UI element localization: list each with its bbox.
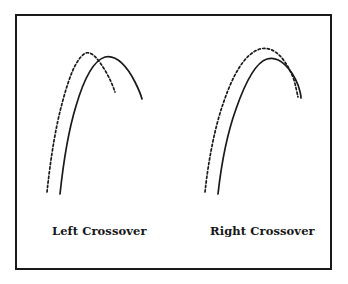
left-panel-solid-curve [60, 57, 142, 194]
figure-root: Left Crossover Right Crossover [0, 0, 348, 284]
caption-left-crossover: Left Crossover [52, 224, 147, 238]
figure-border-frame: Left Crossover Right Crossover [15, 14, 332, 270]
right-panel-dashed-curve [205, 48, 298, 192]
left-panel-dashed-curve [47, 53, 115, 192]
right-panel-solid-curve [218, 58, 301, 194]
caption-right-crossover: Right Crossover [210, 224, 315, 238]
